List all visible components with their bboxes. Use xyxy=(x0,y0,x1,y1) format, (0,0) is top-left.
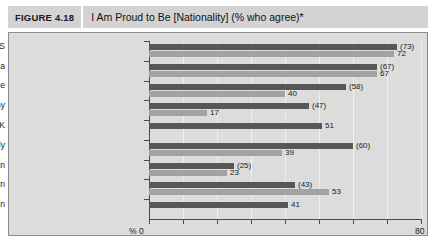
bar-value-label: (47) xyxy=(312,102,326,110)
x-axis-tick xyxy=(387,219,388,224)
x-axis-tick xyxy=(353,219,354,224)
category-label: Spain xyxy=(0,179,5,189)
bar-uk-dark xyxy=(149,123,322,129)
bar-canada-light xyxy=(149,71,377,77)
bar-value-label: (43) xyxy=(298,181,312,189)
bar-value-label: 51 xyxy=(325,122,334,130)
x-axis-tick xyxy=(251,219,252,224)
x-axis-origin-label: % 0 xyxy=(129,226,144,236)
y-axis-tick xyxy=(144,140,149,141)
y-axis-tick xyxy=(144,100,149,101)
category-label: Sweden xyxy=(0,199,5,209)
bar-value-label: 67 xyxy=(380,70,389,78)
y-axis-tick xyxy=(144,179,149,180)
bar-value-label: (25) xyxy=(237,162,251,170)
bar-value-label: (60) xyxy=(356,142,370,150)
x-axis-tick xyxy=(285,219,286,224)
x-axis-max-label: 80 xyxy=(415,226,424,236)
bar-france-light xyxy=(149,91,285,97)
bar-france-dark xyxy=(149,84,346,90)
figure-title: I Am Proud to Be [Nationality] (% who ag… xyxy=(83,6,428,28)
x-axis-tick xyxy=(319,219,320,224)
bar-us-dark xyxy=(149,44,397,50)
bar-germany-light xyxy=(149,110,207,116)
bar-japan-light xyxy=(149,170,227,176)
chart-panel: USCanadaFranceGermanyUKItalyJapanSpainSw… xyxy=(8,32,428,236)
bar-value-label: 72 xyxy=(397,50,406,58)
bar-value-label: 53 xyxy=(332,188,341,196)
y-axis-tick xyxy=(144,160,149,161)
bar-value-label: 17 xyxy=(210,109,219,117)
y-axis-tick xyxy=(144,41,149,42)
bar-value-label: 40 xyxy=(288,90,297,98)
category-label: Japan xyxy=(0,160,5,170)
bar-canada-dark xyxy=(149,64,377,70)
plot-area: USCanadaFranceGermanyUKItalyJapanSpainSw… xyxy=(9,33,429,237)
bar-italy-light xyxy=(149,150,282,156)
y-axis-tick xyxy=(144,120,149,121)
category-label: US xyxy=(0,41,5,51)
x-axis-tick xyxy=(421,219,422,224)
figure-header: FIGURE 4.18 I Am Proud to Be [Nationalit… xyxy=(8,6,428,28)
bar-us-light xyxy=(149,51,394,57)
bar-value-label: 39 xyxy=(285,149,294,157)
category-label: Germany xyxy=(0,100,5,110)
bar-value-label: 23 xyxy=(230,169,239,177)
category-label: France xyxy=(0,80,5,90)
gridline xyxy=(421,41,422,219)
figure-number-tag: FIGURE 4.18 xyxy=(8,6,81,28)
category-label: UK xyxy=(0,120,5,130)
bar-spain-light xyxy=(149,189,329,195)
y-axis-tick xyxy=(144,199,149,200)
x-axis-tick xyxy=(217,219,218,224)
x-axis-tick xyxy=(149,219,150,224)
figure-container: FIGURE 4.18 I Am Proud to Be [Nationalit… xyxy=(0,0,436,242)
bar-value-label: (58) xyxy=(349,83,363,91)
category-label: Italy xyxy=(0,140,5,150)
bar-sweden-dark xyxy=(149,202,288,208)
bar-spain-dark xyxy=(149,182,295,188)
bar-japan-dark xyxy=(149,163,234,169)
category-label: Canada xyxy=(0,61,5,71)
bar-italy-dark xyxy=(149,143,353,149)
y-axis-tick xyxy=(144,81,149,82)
y-axis-tick xyxy=(144,61,149,62)
bar-germany-dark xyxy=(149,103,309,109)
bar-value-label: 41 xyxy=(291,201,300,209)
x-axis-tick xyxy=(183,219,184,224)
